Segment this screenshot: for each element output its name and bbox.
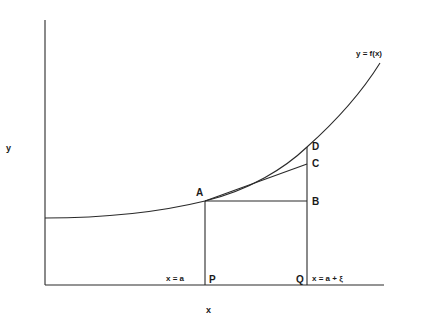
point-label-d: D: [312, 141, 319, 152]
point-label-c: C: [312, 158, 319, 169]
label-x-equals-a-plus-xi: x = a + ξ: [312, 274, 343, 283]
point-label-p: P: [209, 274, 216, 285]
curve-label: y = f(x): [356, 49, 382, 58]
point-label-a: A: [196, 187, 203, 198]
tangent-line-ac: [205, 164, 307, 201]
point-label-q: Q: [296, 274, 304, 285]
point-label-b: B: [312, 196, 319, 207]
label-x-equals-a: x = a: [166, 274, 185, 283]
y-axis-label: y: [6, 143, 11, 153]
curve-f: [45, 63, 380, 218]
diagram-canvas: y = f(x) D C B A P Q x = a x = a + ξ x y: [0, 0, 442, 323]
x-axis-label: x: [206, 305, 211, 315]
